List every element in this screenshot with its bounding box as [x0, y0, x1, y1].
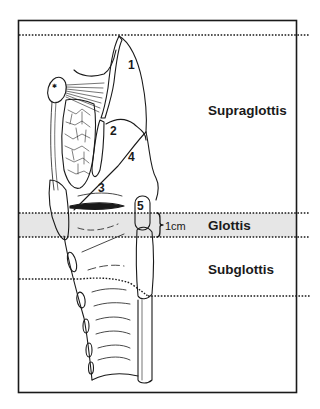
structure-number-4: 4 — [128, 150, 135, 164]
structure-number-3: 3 — [98, 181, 105, 195]
preepiglottic-space — [62, 99, 96, 188]
region-label-supraglottis: Supraglottis — [208, 103, 287, 118]
trachea — [64, 236, 92, 380]
structure-number-1: 1 — [128, 58, 135, 72]
diagram-frame — [19, 21, 297, 393]
svg-text:✱: ✱ — [52, 83, 57, 89]
vocal-fold — [70, 203, 124, 209]
structure-number-5: 5 — [137, 199, 144, 213]
measurement-label: 1cm — [165, 220, 186, 232]
larynx-diagram: ✱ — [0, 0, 320, 409]
glottis-band — [19, 213, 297, 237]
larynx-illustration: ✱ — [45, 36, 163, 383]
region-label-subglottis: Subglottis — [208, 262, 274, 277]
cricoid-cartilage — [136, 227, 153, 299]
structure-number-2: 2 — [110, 124, 117, 138]
region-label-glottis: Glottis — [208, 218, 251, 233]
epiglottis — [101, 36, 122, 118]
